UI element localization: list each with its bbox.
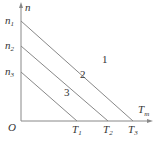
line-1-label: 1 [102, 53, 108, 65]
x-tick-t3: T3 [128, 123, 138, 137]
y-axis-label: n [25, 1, 31, 13]
x-tick-t2: T2 [103, 123, 113, 137]
x-tick-t1: T1 [72, 123, 82, 137]
x-axis-arrow-icon [147, 119, 153, 123]
y-axis-arrow-icon [19, 2, 23, 8]
diagram-canvas: n Tm O n1 n2 n3 T1 T2 T3 1 2 3 [0, 0, 159, 144]
line-1 [21, 21, 133, 121]
origin-label: O [8, 121, 16, 133]
x-axis-label: Tm [138, 103, 149, 118]
line-3-label: 3 [64, 86, 70, 98]
line-2-label: 2 [80, 68, 86, 80]
y-tick-n2: n2 [5, 39, 15, 53]
y-tick-n1: n1 [5, 14, 14, 28]
y-tick-n3: n3 [5, 65, 15, 79]
